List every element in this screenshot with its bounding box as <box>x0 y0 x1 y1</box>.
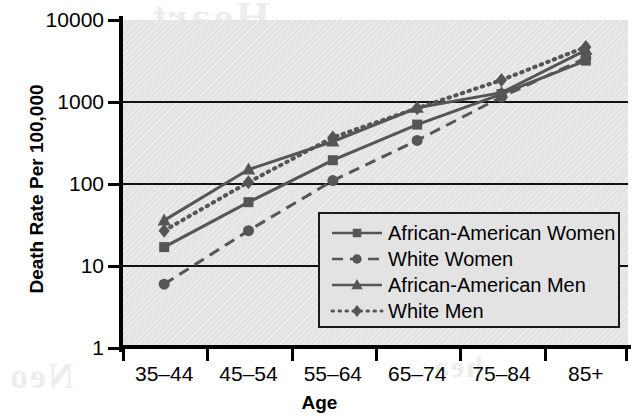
x-axis-tick-label: 45–54 <box>219 362 277 386</box>
legend-marker-circle-icon <box>330 248 384 270</box>
x-axis-tick-label: 75–84 <box>472 362 530 386</box>
legend-item: White Men <box>330 298 618 324</box>
x-axis-tick-mark <box>291 348 294 361</box>
legend-marker-triangle-icon <box>330 274 384 296</box>
y-axis-title: Death Rate Per 100,000 <box>26 34 48 344</box>
y-axis-tick-mark <box>108 19 122 22</box>
x-axis-tick-label: 85+ <box>568 362 604 386</box>
x-axis-tick-label: 55–64 <box>304 362 362 386</box>
data-point-marker <box>158 213 171 225</box>
x-axis-tick-mark <box>122 348 125 361</box>
data-point-marker <box>496 73 507 87</box>
legend-marker-square-icon <box>330 222 384 244</box>
data-point-marker <box>159 242 169 252</box>
y-axis-tick-mark <box>108 265 122 268</box>
data-point-marker <box>412 135 423 146</box>
data-point-marker <box>243 175 254 189</box>
y-axis-tick-label: 1000 <box>0 90 104 114</box>
x-axis-tick-mark <box>206 348 209 361</box>
series-4 <box>159 40 592 238</box>
y-axis-tick-label: 10 <box>0 254 104 278</box>
x-axis-tick-mark <box>544 348 547 361</box>
data-point-marker <box>412 101 423 115</box>
chart-legend: African-American WomenWhite WomenAfrican… <box>318 212 620 328</box>
y-axis-tick-label: 100 <box>0 172 104 196</box>
legend-item: African-American Women <box>330 220 618 246</box>
y-axis-tick-label: 10000 <box>0 8 104 32</box>
chart-figure: Heart Disease Neo hea 100001000100101 35… <box>0 0 639 416</box>
x-axis-tick-label: 35–44 <box>135 362 193 386</box>
data-point-marker <box>243 225 254 236</box>
legend-item: African-American Men <box>330 272 618 298</box>
y-axis-tick-mark <box>108 347 122 350</box>
data-point-marker <box>327 175 338 186</box>
legend-item-label: African-American Men <box>384 274 586 297</box>
y-axis-tick-mark <box>108 183 122 186</box>
data-point-marker <box>412 120 422 130</box>
data-point-marker <box>159 224 170 238</box>
x-axis-tick-mark <box>375 348 378 361</box>
x-axis-tick-mark <box>459 348 462 361</box>
y-axis-tick-mark <box>108 101 122 104</box>
page-bleedthrough-text: Neo <box>8 355 74 397</box>
y-axis-tick-label: 1 <box>0 336 104 360</box>
legend-item-label: White Women <box>384 248 513 271</box>
data-point-marker <box>328 155 338 165</box>
x-axis-title: Age <box>0 392 639 414</box>
data-point-marker <box>244 197 254 207</box>
x-axis-tick-mark <box>625 348 628 361</box>
x-axis-tick-label: 65–74 <box>388 362 446 386</box>
data-point-marker <box>159 279 170 290</box>
series-line <box>164 47 586 231</box>
legend-marker-diamond-icon <box>330 300 384 322</box>
legend-item-label: White Men <box>384 300 484 323</box>
legend-item-label: African-American Women <box>384 222 615 245</box>
legend-item: White Women <box>330 246 618 272</box>
